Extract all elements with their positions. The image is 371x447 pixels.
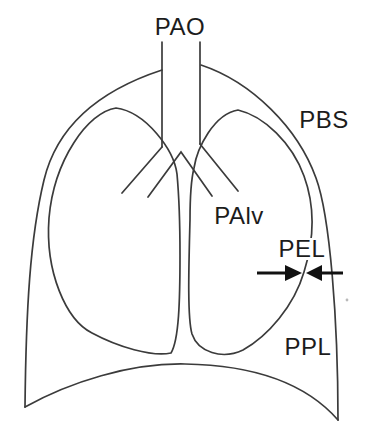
lung-pressure-diagram: PAO PBS PAlv PEL PPL (0, 0, 371, 447)
label-alveolar-pressure: PAlv (214, 202, 264, 229)
scan-speck (346, 299, 349, 302)
carina-lines (148, 152, 212, 197)
label-pleural-pressure: PPL (285, 333, 332, 360)
pel-right-arrowhead-icon (306, 265, 322, 281)
right-bronchus-line (200, 144, 238, 191)
left-lung-outline (49, 108, 180, 354)
label-airway-opening-pressure: PAO (155, 13, 205, 40)
diagram-canvas: PAO PBS PAlv PEL PPL (0, 0, 371, 447)
pel-arrows (257, 265, 343, 281)
right-lung-outline (189, 110, 312, 354)
pel-left-arrowhead-icon (285, 265, 302, 281)
label-elastic-recoil-pressure: PEL (279, 235, 326, 262)
diaphragm-line (25, 364, 338, 420)
label-body-surface-pressure: PBS (299, 106, 349, 133)
